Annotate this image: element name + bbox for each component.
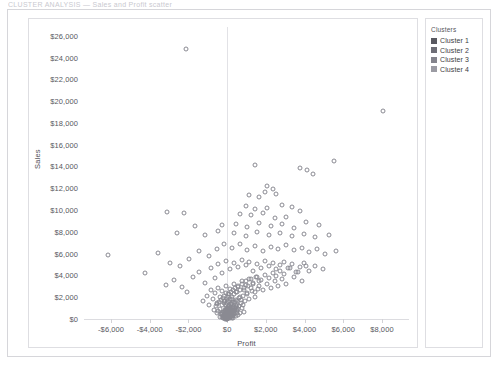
scatter-point[interactable] [288, 266, 293, 271]
scatter-point[interactable] [260, 288, 265, 293]
scatter-point[interactable] [183, 46, 188, 51]
scatter-point[interactable] [214, 247, 219, 252]
scatter-point[interactable] [291, 275, 296, 280]
scatter-point[interactable] [243, 204, 248, 209]
scatter-point[interactable] [303, 264, 308, 269]
scatter-point[interactable] [303, 220, 308, 225]
scatter-point[interactable] [228, 267, 233, 272]
scatter-point[interactable] [251, 281, 256, 286]
scatter-point[interactable] [299, 245, 304, 250]
scatter-point[interactable] [331, 159, 336, 164]
scatter-point[interactable] [266, 276, 271, 281]
scatter-point[interactable] [235, 307, 240, 312]
scatter-point[interactable] [156, 250, 161, 255]
scatter-point[interactable] [315, 247, 320, 252]
scatter-point[interactable] [301, 232, 306, 237]
scatter-point[interactable] [174, 230, 179, 235]
scatter-point[interactable] [197, 269, 202, 274]
scatter-point[interactable] [276, 283, 281, 288]
scatter-point[interactable] [268, 245, 273, 250]
scatter-point[interactable] [224, 258, 229, 263]
scatter-point[interactable] [246, 283, 251, 288]
scatter-point[interactable] [274, 273, 279, 278]
scatter-point[interactable] [311, 171, 316, 176]
scatter-point[interactable] [257, 221, 262, 226]
scatter-point[interactable] [270, 260, 275, 265]
legend-item[interactable]: Cluster 3 [431, 56, 477, 63]
scatter-point[interactable] [171, 277, 176, 282]
scatter-point[interactable] [268, 285, 273, 290]
scatter-point[interactable] [231, 231, 236, 236]
scatter-point[interactable] [264, 184, 269, 189]
scatter-point[interactable] [334, 248, 339, 253]
scatter-point[interactable] [257, 194, 262, 199]
scatter-point[interactable] [212, 291, 217, 296]
scatter-point[interactable] [237, 241, 242, 246]
scatter-point[interactable] [276, 246, 281, 251]
scatter-point[interactable] [320, 267, 325, 272]
scatter-point[interactable] [237, 212, 242, 217]
scatter-point[interactable] [247, 296, 252, 301]
scatter-point[interactable] [289, 234, 294, 239]
scatter-point[interactable] [257, 279, 262, 284]
plot-area[interactable] [84, 27, 409, 319]
scatter-point[interactable] [262, 258, 267, 263]
scatter-point[interactable] [235, 313, 240, 318]
scatter-point[interactable] [208, 266, 213, 271]
scatter-point[interactable] [297, 165, 302, 170]
scatter-point[interactable] [233, 221, 238, 226]
scatter-point[interactable] [216, 229, 221, 234]
scatter-point[interactable] [326, 233, 331, 238]
scatter-point[interactable] [179, 284, 184, 289]
scatter-point[interactable] [253, 206, 258, 211]
scatter-point[interactable] [260, 210, 265, 215]
scatter-point[interactable] [282, 271, 287, 276]
scatter-point[interactable] [260, 248, 265, 253]
scatter-point[interactable] [200, 299, 205, 304]
scatter-point[interactable] [284, 214, 289, 219]
scatter-point[interactable] [249, 213, 254, 218]
scatter-point[interactable] [253, 163, 258, 168]
scatter-point[interactable] [231, 315, 236, 320]
scatter-point[interactable] [206, 254, 211, 259]
scatter-point[interactable] [220, 270, 225, 275]
scatter-point[interactable] [313, 264, 318, 269]
scatter-point[interactable] [280, 203, 285, 208]
scatter-point[interactable] [165, 210, 170, 215]
scatter-point[interactable] [245, 247, 250, 252]
scatter-point[interactable] [278, 230, 283, 235]
scatter-point[interactable] [317, 223, 322, 228]
scatter-point[interactable] [313, 235, 318, 240]
scatter-point[interactable] [181, 211, 186, 216]
legend-item[interactable]: Cluster 4 [431, 66, 477, 73]
scatter-point[interactable] [206, 303, 211, 308]
legend-item[interactable]: Cluster 2 [431, 47, 477, 54]
scatter-point[interactable] [253, 244, 258, 249]
scatter-point[interactable] [245, 225, 250, 230]
scatter-point[interactable] [295, 269, 300, 274]
scatter-point[interactable] [240, 302, 245, 307]
scatter-point[interactable] [284, 281, 289, 286]
scatter-point[interactable] [280, 222, 285, 227]
scatter-point[interactable] [106, 252, 111, 257]
scatter-point[interactable] [259, 266, 264, 271]
scatter-point[interactable] [297, 209, 302, 214]
scatter-point[interactable] [197, 249, 202, 254]
legend-item[interactable]: Cluster 1 [431, 37, 477, 44]
scatter-point[interactable] [289, 204, 294, 209]
scatter-point[interactable] [247, 259, 252, 264]
scatter-point[interactable] [307, 268, 312, 273]
scatter-point[interactable] [255, 287, 260, 292]
scatter-point[interactable] [202, 281, 207, 286]
scatter-point[interactable] [185, 289, 190, 294]
scatter-point[interactable] [252, 294, 257, 299]
scatter-point[interactable] [266, 232, 271, 237]
scatter-point[interactable] [204, 293, 209, 298]
scatter-point[interactable] [291, 248, 296, 253]
scatter-point[interactable] [249, 289, 254, 294]
scatter-point[interactable] [187, 257, 192, 262]
scatter-point[interactable] [142, 271, 147, 276]
scatter-point[interactable] [264, 205, 269, 210]
scatter-point[interactable] [239, 257, 244, 262]
scatter-point[interactable] [229, 245, 234, 250]
